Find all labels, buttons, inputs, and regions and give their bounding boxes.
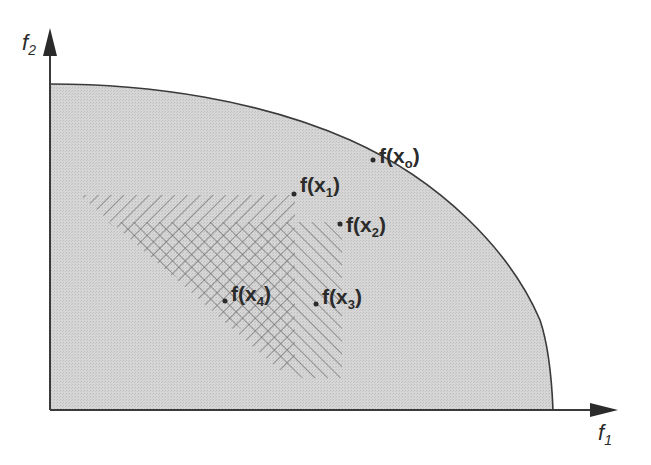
point-marker (223, 299, 228, 304)
point-marker (371, 158, 376, 163)
svg-text:f(x4): f(x4) (231, 282, 271, 309)
pareto-diagram: f2 f1 f(xo) f(x1) f(x2) f(x3) f(x4) (0, 0, 651, 465)
svg-text:f(x1): f(x1) (300, 173, 340, 200)
x-axis-label: f1 (598, 420, 612, 448)
point-marker (338, 222, 343, 227)
point-marker (314, 302, 319, 307)
y-axis-arrow-icon (43, 28, 57, 56)
svg-text:f(x3): f(x3) (322, 285, 362, 312)
x-axis-arrow-icon (590, 403, 618, 417)
svg-text:f(x2): f(x2) (346, 213, 386, 240)
svg-text:f(xo): f(xo) (379, 144, 420, 171)
y-axis-label: f2 (22, 30, 36, 58)
point-marker (292, 192, 297, 197)
